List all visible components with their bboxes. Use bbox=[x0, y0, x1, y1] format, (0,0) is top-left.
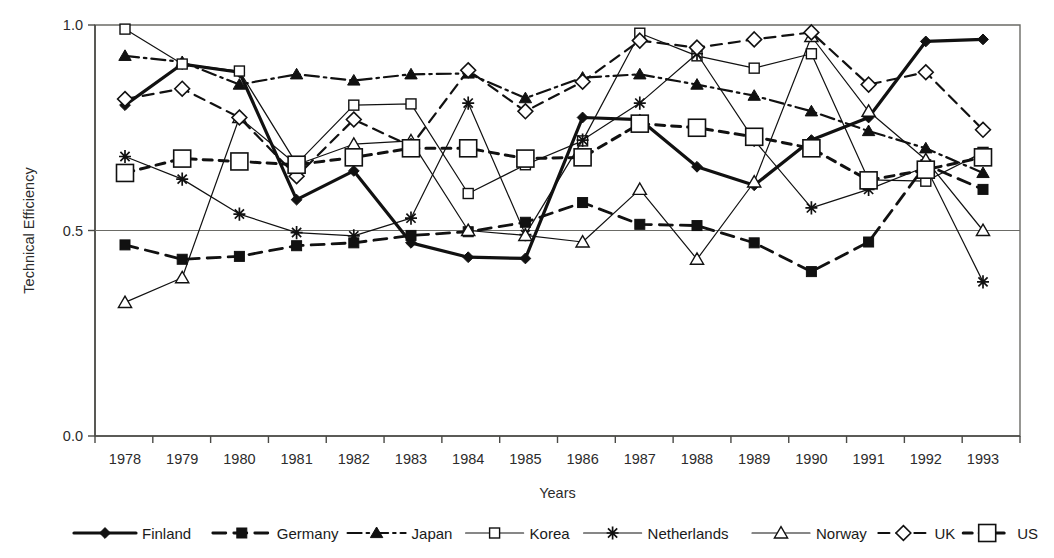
legend-label: US bbox=[1017, 525, 1038, 542]
data-point-marker bbox=[747, 32, 762, 47]
legend-item-netherlands[interactable]: Netherlands bbox=[584, 525, 729, 542]
data-point-marker bbox=[860, 172, 877, 189]
x-axis-tick-label: 1990 bbox=[795, 451, 827, 467]
data-point-marker bbox=[746, 128, 763, 145]
legend-item-finland[interactable]: Finland bbox=[74, 525, 191, 542]
series-line-korea bbox=[125, 29, 983, 193]
data-point-marker bbox=[520, 253, 531, 264]
data-point-marker bbox=[118, 296, 131, 307]
x-axis-tick-label: 1989 bbox=[738, 451, 770, 467]
data-point-marker bbox=[176, 173, 188, 186]
legend-label: Norway bbox=[816, 525, 867, 542]
x-axis-tick-label: 1992 bbox=[910, 451, 942, 467]
x-axis-tick-labels: 1978197919801981198219831984198519861987… bbox=[109, 451, 999, 467]
data-point-marker bbox=[345, 149, 362, 166]
data-point-marker bbox=[917, 161, 934, 178]
data-point-marker bbox=[119, 50, 131, 61]
data-point-marker bbox=[689, 119, 706, 136]
data-point-marker bbox=[749, 63, 759, 73]
y-axis-tick-label: 1.0 bbox=[63, 17, 83, 33]
data-point-marker bbox=[177, 254, 187, 264]
data-point-marker bbox=[288, 156, 305, 173]
legend-item-norway[interactable]: Norway bbox=[752, 525, 867, 542]
data-point-marker bbox=[978, 184, 988, 194]
data-point-marker bbox=[406, 99, 416, 109]
x-axis-tick-label: 1984 bbox=[452, 451, 484, 467]
x-axis-tick-label: 1983 bbox=[395, 451, 427, 467]
data-point-marker bbox=[176, 271, 189, 282]
data-point-marker bbox=[233, 207, 245, 220]
data-point-marker bbox=[117, 164, 134, 181]
series-norway bbox=[118, 30, 989, 307]
y-axis-title: Technical Efficiency bbox=[21, 167, 37, 294]
series-finland bbox=[120, 34, 989, 264]
data-point-marker bbox=[977, 275, 989, 288]
x-axis-tick-label: 1987 bbox=[624, 451, 656, 467]
y-axis-tick-label: 0.0 bbox=[63, 428, 83, 444]
series-line-us bbox=[125, 124, 983, 181]
x-axis-tick-label: 1986 bbox=[566, 451, 598, 467]
series-korea bbox=[120, 24, 988, 198]
legend-item-germany[interactable]: Germany bbox=[213, 525, 339, 542]
y-axis-tick-label: 0.5 bbox=[63, 223, 83, 239]
data-point-marker bbox=[633, 183, 646, 194]
data-point-marker bbox=[518, 104, 533, 119]
legend-item-us[interactable]: US bbox=[963, 525, 1038, 542]
data-point-marker bbox=[120, 24, 130, 34]
data-point-marker bbox=[348, 229, 360, 242]
data-point-marker bbox=[234, 66, 244, 76]
x-axis-ticks bbox=[95, 436, 1020, 443]
legend-marker-sample bbox=[237, 528, 247, 538]
series-line-norway bbox=[125, 37, 983, 303]
legend-marker-sample bbox=[607, 526, 619, 539]
legend-label: UK bbox=[934, 525, 955, 542]
line-chart: 0.00.51.0 197819791980198119821983198419… bbox=[0, 0, 1054, 558]
data-point-marker bbox=[231, 153, 248, 170]
data-point-marker bbox=[803, 140, 820, 157]
data-point-marker bbox=[577, 133, 589, 146]
data-point-marker bbox=[177, 59, 187, 69]
legend-item-korea[interactable]: Korea bbox=[466, 525, 571, 542]
data-point-marker bbox=[578, 198, 588, 208]
legend-marker-sample bbox=[896, 526, 911, 541]
data-point-marker bbox=[120, 240, 130, 250]
x-axis-tick-label: 1980 bbox=[223, 451, 255, 467]
data-point-marker bbox=[119, 150, 131, 163]
legend-item-japan[interactable]: Japan bbox=[348, 525, 453, 542]
x-axis-tick-label: 1982 bbox=[338, 451, 370, 467]
x-axis-title: Years bbox=[539, 485, 576, 501]
data-point-marker bbox=[462, 96, 474, 109]
data-point-marker bbox=[292, 241, 302, 251]
data-point-marker bbox=[118, 92, 133, 107]
x-axis-tick-label: 1985 bbox=[509, 451, 541, 467]
data-point-marker bbox=[692, 221, 702, 231]
series-layer bbox=[117, 24, 992, 307]
legend-label: Germany bbox=[277, 525, 339, 542]
data-point-marker bbox=[175, 81, 190, 96]
data-point-marker bbox=[805, 201, 817, 214]
data-point-marker bbox=[403, 140, 420, 157]
data-point-marker bbox=[291, 194, 302, 205]
data-point-marker bbox=[405, 212, 417, 225]
data-point-marker bbox=[574, 149, 591, 166]
x-axis-tick-label: 1991 bbox=[852, 451, 884, 467]
data-point-marker bbox=[976, 224, 989, 235]
legend-marker-sample bbox=[100, 528, 111, 539]
data-point-marker bbox=[291, 226, 303, 239]
data-point-marker bbox=[174, 150, 191, 167]
legend-label: Finland bbox=[142, 525, 191, 542]
data-point-marker bbox=[349, 100, 359, 110]
data-point-marker bbox=[460, 140, 477, 157]
x-axis-tick-label: 1979 bbox=[166, 451, 198, 467]
data-point-marker bbox=[864, 237, 874, 247]
data-point-marker bbox=[463, 252, 474, 263]
data-point-marker bbox=[463, 189, 473, 199]
x-axis-tick-label: 1981 bbox=[280, 451, 312, 467]
legend-marker-sample bbox=[979, 525, 996, 542]
data-point-marker bbox=[517, 150, 534, 167]
data-point-marker bbox=[234, 251, 244, 261]
data-point-marker bbox=[406, 230, 416, 240]
legend-item-uk[interactable]: UK bbox=[878, 525, 955, 542]
x-axis-tick-label: 1988 bbox=[681, 451, 713, 467]
data-point-marker bbox=[978, 34, 989, 45]
